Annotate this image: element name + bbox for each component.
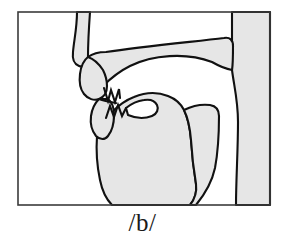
pharyngeal-wall-shape: [232, 12, 270, 205]
figure-root: /b/: [0, 0, 285, 245]
phoneme-label: /b/: [0, 208, 285, 238]
